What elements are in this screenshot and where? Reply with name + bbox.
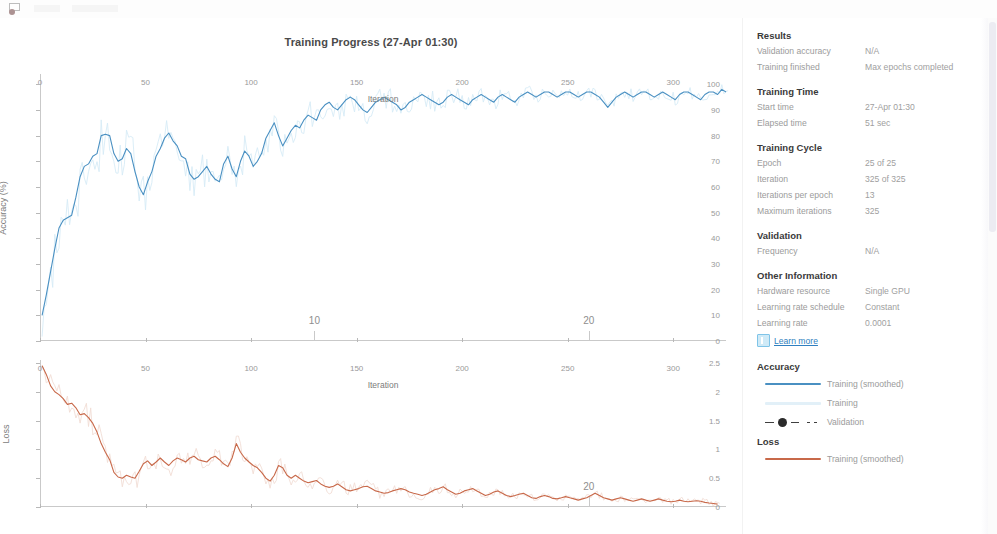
x-tick-label: 0	[38, 364, 42, 373]
loss-plot[interactable]: 05010015020025030000.511.522.5 Iteration…	[40, 360, 726, 507]
panel-edge-shadow	[981, 18, 988, 534]
table-row: Validation accuracy N/A	[757, 46, 990, 57]
toolbar-placeholder-1	[34, 5, 60, 12]
y-tick-label: 60	[711, 182, 720, 191]
table-row: Iterations per epoch 13	[757, 190, 990, 201]
y-tick	[36, 136, 40, 137]
table-row: Maximum iterations 325	[757, 206, 990, 217]
table-row: Learning rate 0.0001	[757, 318, 990, 329]
y-tick	[36, 507, 40, 508]
accuracy-plot[interactable]: 0501001502002503000102030405060708090100…	[40, 74, 726, 341]
x-tick	[462, 338, 463, 342]
x-tick-label: 200	[455, 78, 468, 87]
loss-xlabel: Iteration	[40, 380, 726, 390]
other-information-heading: Other Information	[757, 270, 990, 281]
x-tick-label: 100	[244, 364, 257, 373]
y-tick	[36, 478, 40, 479]
x-tick-label: 50	[141, 78, 150, 87]
vertical-scrollbar[interactable]	[988, 18, 997, 534]
info-panel: Results Validation accuracy N/A Training…	[742, 18, 990, 534]
table-row: Frequency N/A	[757, 246, 990, 257]
validation-heading: Validation	[757, 230, 990, 241]
legend-swatch	[743, 458, 827, 460]
legend-item: Training (smoothed)	[743, 379, 990, 389]
toolbar	[0, 0, 997, 18]
epoch-marker-label: 10	[309, 315, 320, 326]
legend-item: Training (smoothed)	[743, 454, 990, 464]
table-row: Elapsed time 51 sec	[757, 118, 990, 129]
other-information-section: Other Information Hardware resource Sing…	[743, 270, 990, 347]
table-row: Iteration 325 of 325	[757, 174, 990, 185]
legend-label: Training	[827, 398, 858, 408]
y-tick	[36, 315, 40, 316]
row-key: Start time	[757, 102, 865, 113]
legend-swatch	[743, 383, 827, 385]
results-heading: Results	[757, 30, 990, 41]
x-tick	[251, 338, 252, 342]
row-key: Learning rate schedule	[757, 302, 865, 313]
x-tick	[357, 504, 358, 508]
y-tick-label: 80	[711, 131, 720, 140]
row-value: 325 of 325	[865, 174, 990, 185]
learn-more-label: Learn more	[774, 336, 818, 346]
x-tick-label: 300	[667, 78, 680, 87]
legend-item: Training	[743, 398, 990, 408]
legend-label: Training (smoothed)	[827, 454, 904, 464]
x-tick-label: 250	[561, 364, 574, 373]
row-key: Epoch	[757, 158, 865, 169]
x-tick-label: 150	[350, 364, 363, 373]
loss-legend-heading: Loss	[757, 436, 990, 447]
epoch-marker-label: 20	[583, 315, 594, 326]
y-tick-label: 10	[711, 311, 720, 320]
table-row: Hardware resource Single GPU	[757, 286, 990, 297]
training-cycle-section: Training Cycle Epoch 25 of 25 Iteration …	[743, 142, 990, 217]
training-time-heading: Training Time	[757, 86, 990, 97]
row-key: Validation accuracy	[757, 46, 865, 57]
x-tick	[462, 504, 463, 508]
toolbar-placeholder-2	[72, 5, 118, 12]
row-key: Learning rate	[757, 318, 865, 329]
x-tick	[357, 338, 358, 342]
x-tick-label: 250	[561, 78, 574, 87]
x-tick	[146, 338, 147, 342]
row-value: 51 sec	[865, 118, 990, 129]
y-tick-label: 0.5	[709, 474, 720, 483]
y-tick-label: 1.5	[709, 416, 720, 425]
table-row: Epoch 25 of 25	[757, 158, 990, 169]
raw-training-trace	[42, 85, 728, 337]
x-tick	[568, 504, 569, 508]
export-image-icon[interactable]	[8, 3, 20, 15]
y-tick	[36, 84, 40, 85]
x-tick-label: 300	[667, 364, 680, 373]
row-value: Single GPU	[865, 286, 990, 297]
y-tick	[36, 392, 40, 393]
accuracy-ylabel: Accuracy (%)	[0, 181, 8, 235]
row-value: N/A	[865, 46, 990, 57]
y-tick	[36, 264, 40, 265]
legend-swatch	[743, 418, 827, 427]
training-time-section: Training Time Start time 27-Apr 01:30 El…	[743, 86, 990, 129]
epoch-marker-tick	[314, 331, 315, 341]
table-row: Start time 27-Apr 01:30	[757, 102, 990, 113]
x-tick-label: 100	[244, 78, 257, 87]
x-tick	[251, 504, 252, 508]
table-row: Learning rate schedule Constant	[757, 302, 990, 313]
table-row: Training finished Max epochs completed	[757, 62, 990, 73]
x-tick	[673, 338, 674, 342]
y-tick-label: 70	[711, 157, 720, 166]
row-value: Constant	[865, 302, 990, 313]
row-key: Hardware resource	[757, 286, 865, 297]
epoch-marker-tick	[589, 497, 590, 507]
epoch-marker-label: 20	[583, 481, 594, 492]
scrollbar-thumb[interactable]	[989, 22, 996, 232]
info-doc-icon	[757, 334, 770, 347]
training-progress-window: Training Progress (27-Apr 01:30) 0501001…	[0, 0, 997, 534]
y-tick-label: 20	[711, 285, 720, 294]
y-tick-label: 40	[711, 234, 720, 243]
row-key: Maximum iterations	[757, 206, 865, 217]
row-value: 13	[865, 190, 990, 201]
y-tick-label: 2.5	[709, 358, 720, 367]
learn-more-link[interactable]: Learn more	[757, 334, 990, 347]
x-tick-label: 200	[455, 364, 468, 373]
legend-label: Validation	[827, 417, 864, 427]
